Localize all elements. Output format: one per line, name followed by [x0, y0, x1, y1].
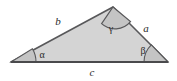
side-label-a: a	[143, 22, 149, 34]
side-label-b: b	[55, 15, 61, 27]
triangle-figure: b a c α β γ	[0, 0, 177, 81]
side-label-c: c	[90, 66, 95, 78]
angle-label-alpha: α	[39, 49, 45, 60]
angle-marker-alpha	[11, 49, 36, 62]
triangle-diagram: b a c α β γ	[0, 0, 177, 81]
angle-label-beta: β	[140, 45, 145, 56]
angle-label-gamma: γ	[108, 23, 114, 34]
